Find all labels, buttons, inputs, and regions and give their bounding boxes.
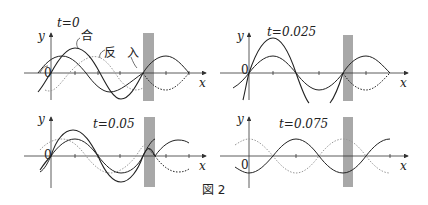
wall xyxy=(343,35,353,101)
time-label: t=0 xyxy=(57,16,80,30)
transmitted-wave-solid xyxy=(155,140,189,156)
x-axis-label: x xyxy=(400,76,407,90)
time-label: t=0.05 xyxy=(93,117,135,131)
label-incident: 入 xyxy=(127,46,139,60)
label-reflected: 反 xyxy=(104,46,116,60)
leader-combined xyxy=(77,38,80,48)
label-combined: 合 xyxy=(81,28,93,43)
panel-t0075: t=0.075 y 0 x xyxy=(220,112,408,188)
time-label: t=0.075 xyxy=(279,117,328,131)
figure-caption: 図 2 xyxy=(202,183,225,197)
wall xyxy=(343,117,353,187)
panel-t0: t=0 y 0 x 合 反 入 xyxy=(24,16,206,101)
panel-t005: t=0.05 y 0 x xyxy=(24,112,206,188)
origin-label: 0 xyxy=(44,148,52,162)
origin-label: 0 xyxy=(44,66,52,80)
y-axis-label: y xyxy=(236,112,244,126)
x-axis-label: x xyxy=(199,159,206,173)
origin-label: 0 xyxy=(241,158,249,172)
reflected-wave xyxy=(45,57,143,91)
combined-wave xyxy=(243,38,343,103)
wall xyxy=(143,33,154,101)
x-axis-label: x xyxy=(400,159,407,173)
y-axis-label: y xyxy=(37,29,45,43)
panel-t0025: t=0.025 y 0 x xyxy=(220,25,408,103)
y-axis-label: y xyxy=(236,29,244,43)
time-label: t=0.025 xyxy=(267,25,316,39)
x-axis-label: x xyxy=(199,76,206,90)
wave-reflection-figure: t=0 y 0 x 合 反 入 t=0.025 y 0 x xyxy=(0,0,428,205)
origin-label: 0 xyxy=(241,63,249,77)
y-axis-label: y xyxy=(37,112,45,126)
